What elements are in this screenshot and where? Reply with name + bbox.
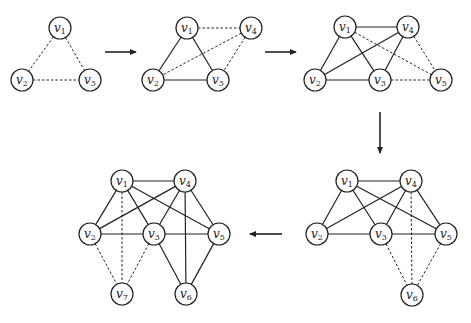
node-v1: v1	[176, 17, 198, 39]
node-v3: v3	[207, 69, 229, 91]
edge-v1-v2-dashed	[28, 37, 53, 71]
edge-v1-v2-solid	[322, 191, 341, 225]
node-v3: v3	[143, 223, 165, 245]
graphs: v1v2v3v1v4v2v3v1v4v2v3v5v1v4v2v3v5v6v1v4…	[11, 16, 457, 306]
node-v2: v2	[306, 223, 328, 245]
edge-v4-v3-solid	[385, 37, 403, 71]
node-v4: v4	[240, 17, 262, 39]
edge-v4-v2-solid	[327, 186, 402, 228]
node-v5: v5	[430, 69, 452, 91]
edge-v5-v6-solid	[191, 244, 213, 285]
edge-v1-v2-solid	[159, 37, 181, 71]
edge-v4-v2-solid	[325, 32, 399, 74]
edge-v4-v3-dashed	[224, 37, 245, 70]
edge-v4-v6-dashed	[411, 192, 412, 284]
graph-step-5: v1v4v2v3v5v7v6	[79, 170, 230, 305]
node-v1: v1	[334, 16, 356, 38]
edge-v1-v3-solid	[193, 37, 213, 70]
node-v5: v5	[435, 223, 457, 245]
edge-v4-v3-solid	[160, 190, 180, 224]
edge-v1-v5-solid	[132, 186, 210, 228]
node-v4: v4	[174, 170, 196, 192]
node-v2: v2	[142, 69, 164, 91]
node-v7: v7	[111, 283, 133, 305]
node-v1: v1	[111, 170, 133, 192]
edge-v5-v6-dashed	[417, 244, 440, 286]
edge-v4-v5-solid	[417, 190, 440, 225]
edge-v1-v3-dashed	[65, 38, 84, 71]
node-v6: v6	[175, 283, 197, 305]
node-v2: v2	[11, 69, 33, 91]
node-v2: v2	[79, 223, 101, 245]
node-v5: v5	[208, 223, 230, 245]
edge-v4-v5-solid	[191, 190, 213, 224]
edge-v4-v6-solid	[185, 192, 186, 283]
graph-step-4: v1v4v2v3v5v6	[306, 170, 457, 306]
edge-v4-v5-dashed	[414, 36, 435, 70]
edge-v4-v2-solid	[100, 186, 176, 228]
graph-construction-diagram: v1v2v3v1v4v2v3v1v4v2v3v5v1v4v2v3v5v6v1v4…	[0, 0, 471, 323]
edge-v3-v6-solid	[159, 244, 181, 285]
node-v3: v3	[369, 69, 391, 91]
node-v3: v3	[370, 223, 392, 245]
node-v2: v2	[304, 69, 326, 91]
diagram-svg: v1v2v3v1v4v2v3v1v4v2v3v5v1v4v2v3v5v6v1v4…	[0, 0, 471, 323]
node-v1: v1	[336, 170, 358, 192]
graph-step-3: v1v4v2v3v5	[304, 16, 452, 91]
graph-step-1: v1v2v3	[11, 17, 101, 91]
node-v4: v4	[400, 170, 422, 192]
edge-v1-v2-solid	[320, 37, 339, 71]
edge-v3-v6-dashed	[386, 244, 407, 285]
node-v1: v1	[49, 17, 71, 39]
edge-v3-v7-dashed	[127, 244, 149, 285]
edge-v4-v3-solid	[386, 191, 405, 225]
edge-v1-v5-dashed	[355, 32, 432, 74]
edge-v2-v7-dashed	[95, 244, 117, 285]
graph-step-2: v1v4v2v3	[142, 17, 262, 91]
node-v3: v3	[79, 69, 101, 91]
node-v6: v6	[401, 284, 423, 306]
node-v4: v4	[397, 16, 419, 38]
edge-v1-v2-solid	[96, 190, 117, 224]
